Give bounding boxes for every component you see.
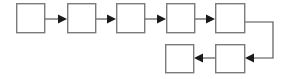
arrow-head-left-icon — [194, 54, 203, 63]
node-2[interactable] — [68, 4, 96, 33]
node-3-shape[interactable] — [117, 4, 145, 33]
edge-node1-to-node2 — [45, 15, 67, 24]
edge-node5-to-node6-path — [245, 22, 273, 58]
flowchart-diagram — [0, 0, 283, 79]
node-7-shape[interactable] — [166, 45, 194, 73]
arrow-head-right-icon — [107, 15, 116, 24]
arrow-head-right-icon — [157, 15, 166, 24]
node-4-shape[interactable] — [167, 4, 195, 33]
edge-node3-to-node4 — [145, 15, 166, 24]
edge-node6-to-node7 — [194, 54, 215, 63]
edge-node4-to-node5 — [195, 15, 215, 24]
arrow-head-right-icon — [58, 15, 67, 24]
node-6[interactable] — [216, 45, 245, 73]
flowchart-canvas — [0, 0, 283, 79]
node-1-shape[interactable] — [17, 4, 45, 33]
arrow-head-right-icon — [206, 15, 215, 24]
edge-node2-to-node3 — [96, 15, 116, 24]
arrow-head-left-icon — [245, 54, 254, 63]
node-6-shape[interactable] — [216, 45, 245, 73]
node-7[interactable] — [166, 45, 194, 73]
node-5[interactable] — [216, 4, 245, 33]
node-1[interactable] — [17, 4, 45, 33]
edge-node5-to-node6 — [245, 22, 273, 62]
node-3[interactable] — [117, 4, 145, 33]
node-layer — [17, 4, 245, 73]
node-2-shape[interactable] — [68, 4, 96, 33]
node-5-shape[interactable] — [216, 4, 245, 33]
node-4[interactable] — [167, 4, 195, 33]
